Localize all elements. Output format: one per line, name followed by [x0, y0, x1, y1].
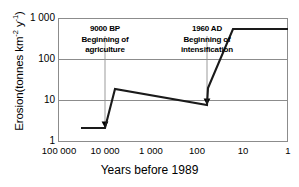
y-tick-label-100: 100 [16, 54, 55, 64]
x-tick-label-100000: 100 000 [42, 145, 76, 156]
annotation-agriculture-line-3: agriculture [57, 45, 153, 56]
x-tick-label-1000: 1 000 [139, 145, 163, 156]
x-tick-label-1: 1 [285, 145, 290, 156]
annotation-intensification-line-3: intensification [155, 45, 259, 56]
annotation-agriculture-line-2: Beginning of [57, 35, 153, 46]
erosion-chart-figure: Erosion(tonnes km-2 y-1) 1 000 100 10 1 [0, 0, 299, 187]
x-axis-tick-labels: 100 000 10 000 1 000 100 10 1 [0, 145, 299, 159]
x-tick-label-100: 100 [189, 145, 205, 156]
y-tick-label-1000: 1 000 [16, 13, 55, 23]
x-axis-title: Years before 1989 [0, 163, 299, 177]
x-tick-label-10000: 10 000 [90, 145, 119, 156]
annotation-intensification: 1960 AD Beginning of intensification [155, 24, 259, 56]
annotation-agriculture: 9000 BP Beginning of agriculture [57, 24, 153, 56]
x-tick-label-10: 10 [238, 145, 249, 156]
annotation-intensification-line-2: Beginning of [155, 35, 259, 46]
y-tick-label-10: 10 [16, 95, 55, 105]
annotation-agriculture-line-1: 9000 BP [57, 24, 153, 35]
annotation-intensification-line-1: 1960 AD [155, 24, 259, 35]
